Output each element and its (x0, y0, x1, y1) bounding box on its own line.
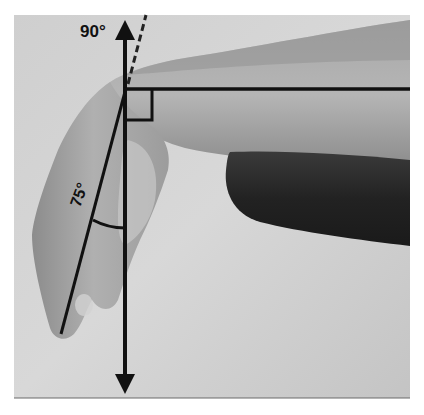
label-90-degrees: 90° (80, 22, 106, 41)
fingernail (75, 294, 93, 316)
figure-canvas: 90° 75° (0, 0, 424, 415)
wrist-flexion-figure: 90° 75° (0, 0, 424, 415)
